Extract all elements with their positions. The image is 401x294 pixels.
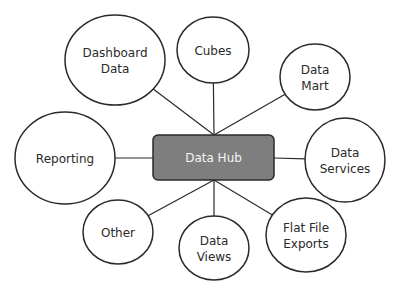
node-label: Other bbox=[101, 226, 135, 240]
node-dashboard-data: DashboardData bbox=[65, 15, 165, 105]
node-cubes: Cubes bbox=[177, 17, 249, 83]
node-label: Cubes bbox=[194, 44, 231, 58]
node-circle bbox=[280, 44, 350, 110]
node-label: Flat File bbox=[283, 221, 329, 235]
node-data-views: DataViews bbox=[179, 216, 249, 280]
node-label: Data bbox=[101, 62, 130, 76]
connector-flat-file-exports bbox=[214, 180, 272, 215]
node-label: Data bbox=[301, 63, 330, 77]
connector-other bbox=[148, 180, 214, 216]
node-label: Exports bbox=[283, 237, 329, 251]
node-label: Services bbox=[320, 162, 371, 176]
node-reporting: Reporting bbox=[15, 112, 115, 204]
node-label: Reporting bbox=[36, 152, 94, 166]
node-data-mart: DataMart bbox=[280, 44, 350, 110]
node-label: Mart bbox=[301, 79, 329, 93]
node-label: Data bbox=[331, 146, 360, 160]
node-flat-file-exports: Flat FileExports bbox=[266, 198, 346, 272]
node-circle bbox=[305, 118, 385, 202]
hub-label: Data Hub bbox=[185, 151, 242, 165]
node-label: Data bbox=[200, 234, 229, 248]
node-label: Views bbox=[197, 250, 232, 264]
node-data-services: DataServices bbox=[305, 118, 385, 202]
data-hub-diagram: DashboardDataCubesDataMartReportingDataS… bbox=[0, 0, 401, 294]
hub-node: Data Hub bbox=[153, 135, 274, 180]
node-label: Dashboard bbox=[82, 46, 147, 60]
connector-data-mart bbox=[214, 94, 285, 135]
node-circle bbox=[65, 15, 165, 105]
connector-data-services bbox=[274, 158, 305, 159]
connector-dashboard-data bbox=[153, 89, 214, 135]
node-circle bbox=[179, 216, 249, 280]
node-other: Other bbox=[83, 200, 153, 264]
connector-cubes bbox=[213, 83, 214, 135]
node-circle bbox=[266, 198, 346, 272]
